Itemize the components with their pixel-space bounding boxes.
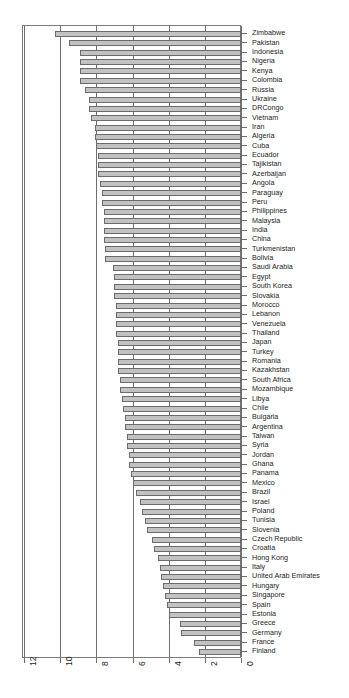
bar xyxy=(114,274,241,280)
category-label: Malaysia xyxy=(252,217,280,224)
category-label: Finland xyxy=(252,647,276,654)
category-tick xyxy=(241,267,247,268)
category-tick xyxy=(241,286,247,287)
category-label: Poland xyxy=(252,507,274,514)
bar xyxy=(118,368,241,374)
bar xyxy=(85,87,241,93)
bar xyxy=(89,97,241,103)
bar xyxy=(152,537,241,543)
category-tick xyxy=(241,511,247,512)
bar xyxy=(127,434,241,440)
category-tick xyxy=(241,305,247,306)
category-tick xyxy=(241,276,247,277)
x-axis-tick xyxy=(205,658,206,663)
category-label: Saudi Arabia xyxy=(252,263,293,270)
category-tick xyxy=(241,164,247,165)
category-tick xyxy=(241,70,247,71)
bar xyxy=(158,555,241,561)
category-label: Panama xyxy=(252,469,279,476)
category-tick xyxy=(241,323,247,324)
bar xyxy=(180,621,241,627)
bar xyxy=(118,340,241,346)
category-tick xyxy=(241,473,247,474)
category-label: South Korea xyxy=(252,282,292,289)
category-label: Vietnam xyxy=(252,114,278,121)
category-label: Nigeria xyxy=(252,57,275,64)
category-tick xyxy=(241,454,247,455)
category-label: Mozambique xyxy=(252,385,293,392)
category-tick xyxy=(241,492,247,493)
bar xyxy=(125,415,241,421)
category-tick xyxy=(241,604,247,605)
bar xyxy=(120,377,241,383)
category-tick xyxy=(241,585,247,586)
category-label: Russia xyxy=(252,86,274,93)
category-tick xyxy=(241,389,247,390)
bar xyxy=(142,509,241,515)
bar xyxy=(181,630,241,636)
bar xyxy=(118,349,241,355)
x-axis-tick xyxy=(24,658,25,663)
category-tick xyxy=(241,230,247,231)
category-label: Estonia xyxy=(252,610,276,617)
category-label: Egypt xyxy=(252,273,270,280)
category-tick xyxy=(241,408,247,409)
category-label: Greece xyxy=(252,619,276,626)
bar xyxy=(125,424,241,430)
bar xyxy=(123,406,241,412)
category-label: Israel xyxy=(252,498,270,505)
category-tick xyxy=(241,333,247,334)
bar xyxy=(145,518,241,524)
category-label: Bulgaria xyxy=(252,413,278,420)
bar xyxy=(55,31,241,37)
category-tick xyxy=(241,548,247,549)
x-axis-tick-label: 10 xyxy=(64,657,74,666)
category-tick xyxy=(241,482,247,483)
bar xyxy=(116,303,241,309)
category-label: Tunisia xyxy=(252,516,275,523)
category-label: Czech Republic xyxy=(252,535,302,542)
bar xyxy=(167,602,241,608)
category-tick xyxy=(241,529,247,530)
category-tick xyxy=(241,52,247,53)
category-tick xyxy=(241,539,247,540)
category-tick xyxy=(241,145,247,146)
category-label: India xyxy=(252,226,268,233)
category-tick xyxy=(241,642,247,643)
category-label: Colombia xyxy=(252,76,282,83)
category-label: Kazakhstan xyxy=(252,366,290,373)
bar xyxy=(69,40,241,46)
category-tick xyxy=(241,239,247,240)
bar xyxy=(95,125,241,131)
category-tick xyxy=(241,183,247,184)
bar xyxy=(114,284,241,290)
x-axis-tick xyxy=(60,658,61,663)
category-tick xyxy=(241,567,247,568)
category-label: Lebanon xyxy=(252,310,280,317)
category-label: Angola xyxy=(252,179,274,186)
bar xyxy=(102,190,241,196)
bar xyxy=(136,490,241,496)
horizontal-bar-chart: ZimbabwePakistanIndonesiaNigeriaKenyaCol… xyxy=(0,0,349,698)
bar xyxy=(194,640,241,646)
bar xyxy=(98,171,241,177)
category-tick xyxy=(241,202,247,203)
category-tick xyxy=(241,80,247,81)
category-tick xyxy=(241,127,247,128)
category-label: Peru xyxy=(252,198,267,205)
bar xyxy=(133,480,242,486)
category-tick xyxy=(241,426,247,427)
bar xyxy=(116,331,241,337)
category-tick xyxy=(241,632,247,633)
bar xyxy=(98,162,241,168)
category-label: Azerbaijan xyxy=(252,170,286,177)
category-label: Tajikistan xyxy=(252,160,282,167)
category-tick xyxy=(241,136,247,137)
category-label: Taiwan xyxy=(252,432,274,439)
bar xyxy=(98,153,241,159)
category-tick xyxy=(241,361,247,362)
gridline-12 xyxy=(24,26,25,657)
category-tick xyxy=(241,351,247,352)
category-tick xyxy=(241,651,247,652)
bar xyxy=(89,106,241,112)
